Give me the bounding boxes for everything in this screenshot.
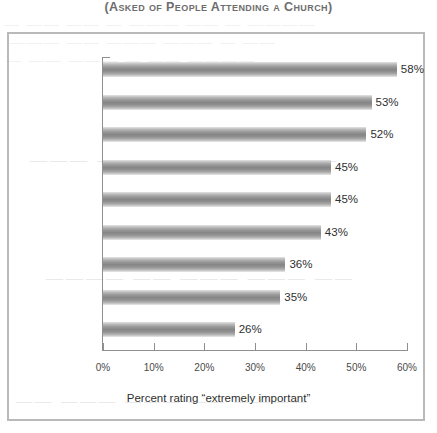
bar: [103, 290, 280, 305]
y-axis-top-cap: [102, 57, 110, 58]
bar: [103, 192, 331, 207]
bar-value-label: 35%: [284, 291, 307, 303]
x-axis-tick-label: 60%: [397, 362, 417, 373]
x-axis-tick-label: 40%: [296, 362, 316, 373]
bar: [103, 95, 372, 110]
x-axis-tick: [356, 343, 357, 350]
bar: [103, 127, 366, 142]
bar: [103, 257, 285, 272]
x-axis-tick-label: 50%: [346, 362, 366, 373]
bar: [103, 225, 321, 240]
x-axis-tick: [407, 343, 408, 350]
bar: [103, 322, 235, 337]
x-axis-tick-label: 30%: [245, 362, 265, 373]
x-axis-tick-label: 20%: [194, 362, 214, 373]
x-axis-tick: [103, 343, 104, 350]
x-axis-tick-label: 0%: [96, 362, 110, 373]
bar-value-label: 36%: [289, 258, 312, 270]
bar-value-label: 45%: [335, 193, 358, 205]
bar-value-label: 43%: [325, 226, 348, 238]
x-axis-tick: [204, 343, 205, 350]
bar-value-label: 26%: [239, 323, 262, 335]
bar: [103, 160, 331, 175]
bar-value-label: 52%: [370, 128, 393, 140]
x-axis-tick: [154, 343, 155, 350]
bar-chart-plot: 0%10%20%30%40%50%60% Doctrine/Theology58…: [0, 0, 437, 433]
bar-value-label: 45%: [335, 161, 358, 173]
x-axis-line: [102, 350, 408, 351]
x-axis-caption: Percent rating “extremely important”: [0, 392, 437, 404]
x-axis-tick: [255, 343, 256, 350]
x-axis-tick-label: 10%: [144, 362, 164, 373]
bar-value-label: 53%: [376, 96, 399, 108]
x-axis-tick: [306, 343, 307, 350]
bar-value-label: 58%: [401, 63, 424, 75]
bar: [103, 62, 397, 77]
